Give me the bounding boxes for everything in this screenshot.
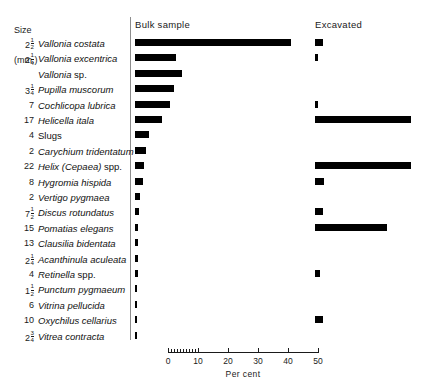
species-size-mm: 6 [0, 299, 34, 312]
bulk-sample-bar [135, 285, 137, 292]
axis-minor-tick [189, 349, 190, 353]
size-fraction: 12 [31, 283, 34, 296]
bulk-sample-bar [135, 70, 182, 77]
table-row: 2Vertigo pygmaea [0, 190, 421, 206]
excavated-bar [315, 101, 318, 108]
axis-tick-label: 20 [223, 356, 232, 366]
bulk-sample-bar [135, 316, 137, 323]
species-name: Helicella itala [38, 114, 94, 127]
species-name: Hygromia hispida [38, 176, 111, 189]
axis-tick [228, 348, 229, 353]
size-fraction: 14 [31, 52, 34, 65]
bulk-sample-column-header: Bulk sample [135, 19, 190, 30]
species-size-mm: 15 [0, 222, 34, 235]
bulk-sample-bar [135, 224, 138, 231]
species-name: Pupilla muscorum [38, 83, 114, 96]
snail-species-abundance-chart: Size (mm.) Bulk sample Excavated 212Vall… [0, 0, 421, 388]
axis-tick [318, 348, 319, 353]
percent-axis: 01020304050 Per cent [0, 352, 421, 388]
bulk-sample-bar [135, 332, 137, 339]
species-size-mm: 2 [0, 191, 34, 204]
axis-minor-tick [195, 349, 196, 353]
species-name: Vertigo pygmaea [38, 191, 109, 204]
species-size-mm: 8 [0, 176, 34, 189]
species-size-mm: 17 [0, 114, 34, 127]
species-name: Cochlicopa lubrica [38, 99, 116, 112]
species-size-mm: 214 [0, 52, 34, 67]
species-size-mm: 10 [0, 314, 34, 327]
species-size-mm: 4 [0, 129, 34, 142]
species-name: Retinella spp. [38, 268, 96, 281]
table-row: 2Carychium tridentatum [0, 144, 421, 160]
species-size-mm: 314 [0, 83, 34, 98]
size-fraction: 34 [31, 330, 34, 343]
bulk-sample-bar [135, 178, 143, 185]
size-header-line1: Size [14, 25, 38, 35]
species-size-mm: 112 [0, 283, 34, 298]
bulk-sample-bar [135, 270, 138, 277]
excavated-bar [315, 208, 323, 215]
species-size-mm: 212 [0, 37, 34, 52]
table-row: 234Vitrea contracta [0, 329, 421, 345]
species-name: Acanthinula aculeata [38, 253, 126, 266]
axis-minor-tick [177, 349, 178, 353]
table-row: 10Oxychilus cellarius [0, 313, 421, 329]
axis-minor-tick [180, 349, 181, 353]
bulk-sample-bar [135, 54, 176, 61]
species-name: Clausilia bidentata [38, 237, 116, 250]
bulk-sample-bar [135, 131, 149, 138]
excavated-column-header: Excavated [315, 19, 362, 30]
axis-tick [258, 348, 259, 353]
size-fraction: 12 [31, 37, 34, 50]
axis-tick-label: 0 [166, 356, 171, 366]
size-fraction: 14 [31, 253, 34, 266]
axis-tick-label: 50 [313, 356, 322, 366]
species-size-mm: 4 [0, 268, 34, 281]
table-row: 214Vallonia excentrica [0, 51, 421, 67]
bulk-sample-bar [135, 116, 162, 123]
excavated-bar [315, 178, 324, 185]
axis-minor-tick [192, 349, 193, 353]
species-name: Oxychilus cellarius [38, 314, 117, 327]
excavated-bar [315, 54, 318, 61]
species-size-mm: 7 [0, 99, 34, 112]
axis-tick-label: 10 [193, 356, 202, 366]
species-name: Vitrea contracta [38, 330, 104, 343]
species-name: Punctum pygmaeum [38, 283, 125, 296]
table-row: 214Acanthinula aculeata [0, 252, 421, 268]
excavated-bar [315, 224, 387, 231]
table-row: 8Hygromia hispida [0, 175, 421, 191]
table-row: 314Pupilla muscorum [0, 82, 421, 98]
bulk-sample-bar [135, 193, 140, 200]
species-name: Carychium tridentatum [38, 145, 134, 158]
table-row: 13Clausilia bidentata [0, 236, 421, 252]
bulk-sample-bar [135, 39, 291, 46]
species-name: Vallonia sp. [38, 68, 87, 81]
species-size-mm: 22 [0, 160, 34, 173]
axis-line [168, 352, 318, 353]
bulk-sample-bar [135, 208, 139, 215]
table-row: 15Pomatias elegans [0, 221, 421, 237]
species-name: Helix (Cepaea) spp. [38, 160, 122, 173]
species-size-mm: 234 [0, 330, 34, 345]
axis-minor-tick [183, 349, 184, 353]
axis-tick [198, 348, 199, 353]
table-row: 4Retinella spp. [0, 267, 421, 283]
table-row: 7Cochlicopa lubrica [0, 98, 421, 114]
table-row: Vallonia sp. [0, 67, 421, 83]
species-name: Discus rotundatus [38, 206, 114, 219]
excavated-bar [315, 116, 411, 123]
bulk-sample-bar [135, 147, 146, 154]
size-fraction: 14 [31, 83, 34, 96]
species-size-mm: 13 [0, 237, 34, 250]
axis-tick [168, 348, 169, 353]
species-size-mm: 214 [0, 253, 34, 268]
species-name: Vallonia excentrica [38, 52, 117, 65]
table-row: 712Discus rotundatus [0, 205, 421, 221]
bulk-sample-bar [135, 85, 174, 92]
species-size-mm: 712 [0, 206, 34, 221]
species-name: Vitrina pellucida [38, 299, 105, 312]
excavated-bar [315, 162, 411, 169]
axis-tick-label: 40 [283, 356, 292, 366]
excavated-bar [315, 270, 320, 277]
